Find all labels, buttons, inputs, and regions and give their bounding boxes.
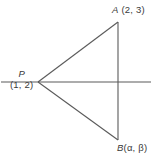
segment-pb-line <box>38 82 118 140</box>
point-label-b: B(α, β) <box>117 142 147 153</box>
geometry-figure: A (2, 3) P (1, 2) B(α, β) <box>0 0 155 162</box>
point-a-coords: (2, 3) <box>119 4 145 15</box>
point-b-coords: (α, β) <box>124 142 148 153</box>
point-label-a: A (2, 3) <box>112 4 145 15</box>
point-p-coords: (1, 2) <box>10 79 33 91</box>
segment-pa-line <box>38 22 118 82</box>
point-label-p: P (1, 2) <box>10 68 33 91</box>
point-p-name: P <box>10 68 33 79</box>
